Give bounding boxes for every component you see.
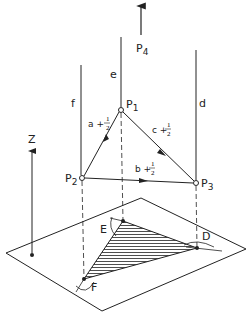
- point-p2: [80, 176, 85, 181]
- label-edge-c-num: 1: [167, 121, 171, 129]
- label-f: F: [91, 281, 97, 294]
- label-p1: P1: [126, 98, 138, 113]
- label-p3: P3: [201, 177, 213, 192]
- label-edge-c-den: 2: [167, 130, 171, 138]
- diagram-canvas: P4 P1 P2 P3 e f d a + 1 2 c + 1 2 b + 1 …: [0, 0, 252, 315]
- label-z: Z: [28, 133, 36, 146]
- point-d: [195, 246, 199, 250]
- point-f: [82, 277, 86, 281]
- tangent-e: [110, 218, 123, 221]
- projection-p1: [121, 113, 123, 221]
- label-edge-c: c +: [152, 125, 167, 135]
- label-edge-b-den: 2: [151, 169, 155, 177]
- label-edge-a-den: 2: [106, 124, 110, 132]
- label-e: E: [100, 223, 107, 236]
- projection-p3: [196, 186, 197, 248]
- point-p1: [119, 108, 124, 113]
- label-edge-a: a +: [88, 119, 104, 129]
- point-p3: [194, 181, 199, 186]
- point-z-origin: [30, 253, 34, 257]
- label-edge-b-num: 1: [151, 160, 155, 168]
- projection-p2: [82, 181, 84, 279]
- label-p2: P2: [65, 172, 77, 187]
- arrow-a-icon: [103, 134, 109, 142]
- label-edge-b: b +: [135, 164, 151, 174]
- edge-c: [123, 112, 194, 181]
- label-line-f: f: [71, 97, 76, 110]
- label-line-e: e: [110, 68, 117, 81]
- point-e: [121, 219, 125, 223]
- label-d: D: [202, 230, 210, 243]
- label-line-d: d: [199, 97, 206, 110]
- label-edge-a-num: 1: [106, 115, 110, 123]
- label-p4: P4: [136, 42, 149, 57]
